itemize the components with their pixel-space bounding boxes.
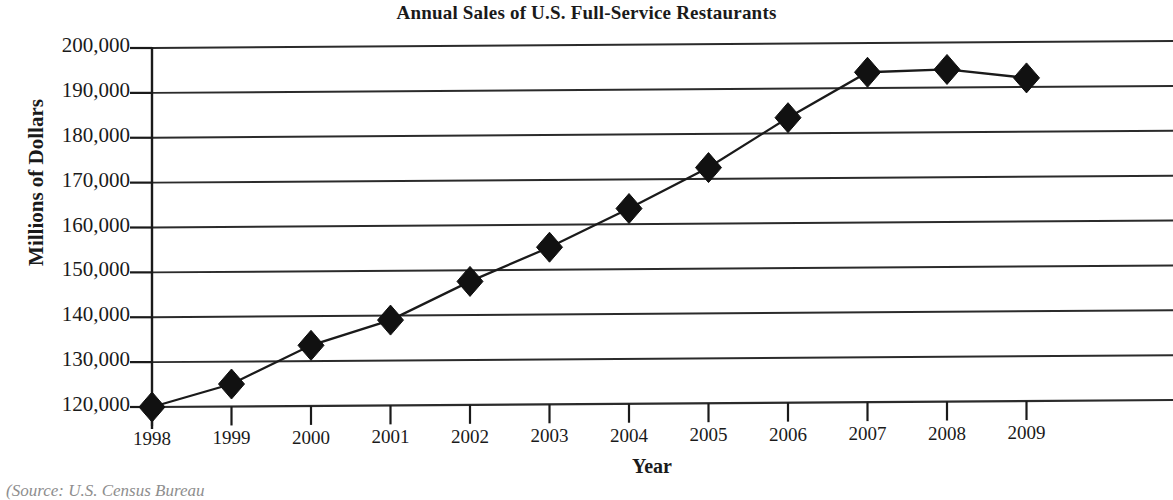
x-axis-tick-label: 2004 [589, 425, 669, 447]
x-axis-tick-label: 2008 [907, 423, 987, 445]
x-axis-tick-label: 2006 [748, 424, 828, 446]
chart-figure: Annual Sales of U.S. Full-Service Restau… [0, 0, 1173, 500]
x-axis-tick-label: 2003 [510, 425, 590, 447]
x-axis-title: Year [152, 455, 1152, 478]
x-axis-tick-label: 2005 [669, 424, 749, 446]
x-axis-tick-label: 1998 [112, 428, 192, 450]
x-axis-tick-label: 2007 [828, 423, 908, 445]
x-axis-tick-label: 2002 [430, 426, 510, 448]
x-axis-tick-label: 2009 [987, 422, 1067, 444]
x-axis-tick-label: 2001 [351, 426, 431, 448]
x-axis-tick-label: 2000 [271, 427, 351, 449]
x-axis-tick-labels: 1998199920002001200220032004200520062007… [0, 0, 1173, 500]
source-note: (Source: U.S. Census Bureau [6, 481, 204, 500]
x-axis-tick-label: 1999 [192, 427, 272, 449]
